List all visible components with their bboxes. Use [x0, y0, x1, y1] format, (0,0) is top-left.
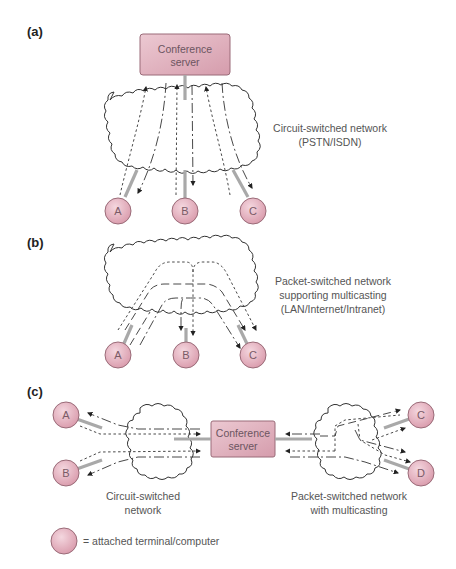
- link-cloud-a: [125, 170, 137, 197]
- terminal-legend-swatch: [51, 528, 77, 554]
- circuit-switched-cloud-a: [104, 83, 260, 173]
- svg-text:C: C: [249, 349, 257, 361]
- panel-b: (b) Packet-switched network supporting m…: [27, 235, 392, 368]
- server-label-line1: Conference: [158, 43, 212, 55]
- terminal-b: B: [53, 460, 79, 486]
- conferencing-diagram: (a) Conference server Circuit-switched n…: [0, 0, 456, 569]
- panel-a-label: (a): [27, 24, 43, 39]
- right-network-label-line1: Packet-switched network: [291, 490, 408, 502]
- svg-text:B: B: [181, 205, 188, 217]
- right-network-label-line2: with multicasting: [309, 504, 387, 516]
- legend: = attached terminal/computer: [51, 528, 220, 554]
- link-cloud-c: [233, 170, 248, 197]
- terminal-b: B: [173, 342, 199, 368]
- svg-text:A: A: [114, 349, 122, 361]
- svg-text:B: B: [62, 467, 69, 479]
- network-label-b-line3: (LAN/Internet/Intranet): [281, 303, 385, 315]
- conference-server-a: Conference server: [140, 34, 230, 75]
- network-label-a-line1: Circuit-switched network: [273, 122, 388, 134]
- legend-text: = attached terminal/computer: [83, 535, 220, 547]
- conference-server-c: Conference server: [211, 421, 275, 457]
- left-network-label-line1: Circuit-switched: [106, 490, 180, 502]
- circuit-switched-cloud-c: [126, 404, 194, 480]
- network-label-a-line2: (PSTN/ISDN): [299, 136, 362, 148]
- terminal-c: C: [240, 342, 266, 368]
- svg-text:A: A: [62, 409, 70, 421]
- left-network-label-line2: network: [125, 504, 163, 516]
- terminal-b: B: [172, 198, 198, 224]
- terminal-a: A: [53, 402, 79, 428]
- svg-text:A: A: [114, 205, 122, 217]
- server-label-line1: Conference: [216, 427, 270, 439]
- panel-a: (a) Conference server Circuit-switched n…: [27, 24, 388, 224]
- terminal-a: A: [105, 198, 131, 224]
- terminal-c: C: [408, 402, 434, 428]
- network-label-b-line2: supporting multicasting: [279, 289, 387, 301]
- svg-text:B: B: [182, 349, 189, 361]
- svg-text:C: C: [417, 409, 425, 421]
- panel-b-label: (b): [27, 235, 44, 250]
- svg-text:D: D: [417, 467, 425, 479]
- panel-c-label: (c): [27, 384, 43, 399]
- terminal-a: A: [105, 342, 131, 368]
- terminal-c: C: [240, 198, 266, 224]
- svg-text:C: C: [249, 205, 257, 217]
- panel-c: (c) Conference server: [27, 384, 434, 516]
- server-label-line2: server: [170, 56, 200, 68]
- server-label-line2: server: [228, 440, 258, 452]
- packet-switched-cloud-c: [314, 404, 382, 480]
- terminal-d: D: [408, 460, 434, 486]
- network-label-b-line1: Packet-switched network: [275, 275, 392, 287]
